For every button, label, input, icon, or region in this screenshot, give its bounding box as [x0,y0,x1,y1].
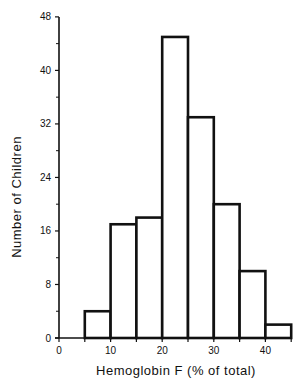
x-tick-label: 0 [56,345,62,356]
y-tick-label: 0 [45,333,51,344]
x-tick-label: 10 [105,345,117,356]
histogram-bar [111,224,137,338]
histogram-bars [85,37,291,338]
histogram-bar [162,37,188,338]
x-axis-title: Hemoglobin F (% of total) [96,363,256,378]
y-tick-label: 8 [45,279,51,290]
y-tick-label: 48 [40,11,52,22]
y-axis: 081624324048 [40,11,59,343]
y-tick-label: 40 [40,65,52,76]
y-tick-label: 24 [40,172,52,183]
y-tick-label: 16 [40,225,52,236]
x-tick-label: 30 [208,345,220,356]
histogram-chart: 081624324048 010203040 Hemoglobin F (% o… [0,0,301,387]
histogram-bar [214,204,240,338]
histogram-bar [240,271,266,338]
x-tick-label: 20 [157,345,169,356]
y-tick-label: 32 [40,118,52,129]
histogram-bar [85,311,111,338]
x-axis: 010203040 [55,338,291,356]
histogram-bar [136,218,162,338]
x-tick-label: 40 [260,345,272,356]
histogram-bar [188,117,214,338]
histogram-bar [265,325,291,338]
y-axis-title: Number of Children [9,136,24,258]
